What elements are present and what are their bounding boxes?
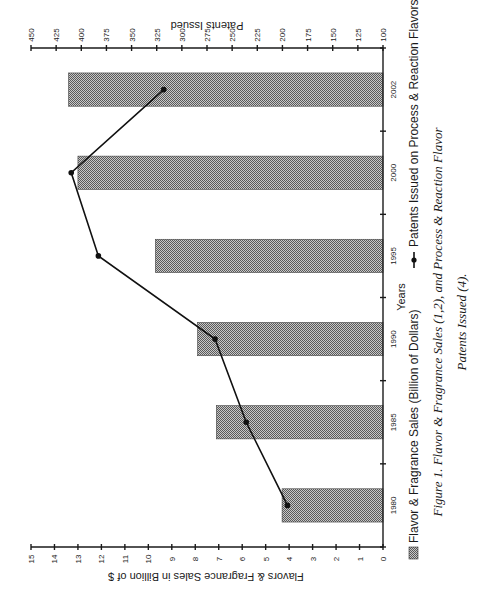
patent-point-1985: [243, 419, 249, 425]
patents-tick-label: 125: [354, 28, 363, 42]
patents-tick-label: 400: [77, 28, 86, 42]
category-label: 1990: [389, 330, 398, 348]
bar-1980: [282, 489, 383, 522]
legend-bar-label: Flavor & Fragrance Sales (Billion of Dol…: [407, 310, 421, 543]
sales-tick-label: 7: [215, 556, 224, 561]
sales-tick-label: 3: [309, 556, 318, 561]
patents-tick-label: 350: [128, 28, 137, 42]
patent-point-1990: [212, 336, 218, 342]
sales-tick-label: 8: [191, 556, 200, 561]
patents-tick-label: 450: [27, 28, 36, 42]
patent-point-2000: [68, 170, 74, 176]
years-axis-title: Years: [395, 283, 407, 311]
sales-bars: [69, 73, 383, 522]
sales-axis-title: Flavors & Fragrance Sales in Billion of …: [108, 571, 304, 583]
category-label: 2000: [389, 163, 398, 181]
sales-tick-label: 5: [262, 556, 271, 561]
category-label: 1985: [389, 413, 398, 431]
sales-tick-label: 6: [238, 556, 247, 561]
sales-tick-label: 4: [285, 556, 294, 561]
patents-tick-label: 175: [304, 28, 313, 42]
category-label: 2002: [389, 80, 398, 98]
patents-line: [68, 87, 290, 508]
sales-tick-label: 15: [27, 554, 36, 563]
axis-labels: 1980198519901995200020020123456789101112…: [27, 28, 398, 564]
category-label: 1995: [389, 246, 398, 264]
bar-2000: [78, 156, 383, 189]
sales-tick-label: 1: [356, 556, 365, 561]
sales-tick-label: 0: [379, 556, 388, 561]
patents-tick-label: 425: [52, 28, 61, 42]
legend-bar-swatch: [409, 547, 418, 559]
patents-tick-label: 375: [102, 28, 111, 42]
legend-line-marker: [411, 252, 416, 268]
sales-tick-label: 11: [121, 554, 130, 563]
sales-tick-label: 2: [332, 556, 341, 561]
patents-tick-label: 150: [329, 28, 338, 42]
patents-tick-label: 200: [278, 28, 287, 42]
patents-axis-title: Patents Issued: [171, 20, 244, 32]
patents-tick-label: 225: [253, 28, 262, 42]
patent-point-2002: [161, 87, 167, 93]
sales-tick-label: 10: [144, 554, 153, 563]
legend-line-label: Patents Issued on Process & Reaction Fla…: [407, 0, 421, 247]
figure-caption-line2: Patents Issued (4).: [454, 273, 469, 371]
bar-1995: [155, 239, 383, 272]
patents-tick-label: 100: [379, 28, 388, 42]
legend: Flavor & Fragrance Sales (Billion of Dol…: [407, 0, 421, 559]
patent-point-1995: [96, 253, 102, 259]
sales-tick-label: 14: [50, 554, 59, 563]
sales-tick-label: 13: [74, 554, 83, 563]
patents-tick-label: 325: [153, 28, 162, 42]
axes: [31, 45, 386, 550]
combo-chart: 1980198519901995200020020123456789101112…: [0, 0, 486, 596]
category-label: 1980: [389, 496, 398, 514]
bar-1990: [198, 322, 383, 355]
patent-point-1980: [285, 503, 291, 509]
sales-tick-label: 9: [168, 556, 177, 561]
sales-tick-label: 12: [97, 554, 106, 563]
figure-caption-line1: Figure 1. Flavor & Fragrance Sales (1,2)…: [430, 127, 445, 518]
bar-2002: [69, 73, 383, 106]
